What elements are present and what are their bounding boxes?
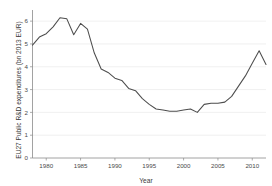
- y-tick-label: 6: [25, 17, 29, 24]
- y-tick-label: 4: [25, 63, 29, 70]
- y-tick-label: 0: [25, 154, 29, 161]
- y-tick-label: 1: [25, 131, 29, 138]
- gridlines-group: [33, 21, 267, 135]
- line-chart: 0123456 1980198519901995200020052010 Yea…: [0, 0, 272, 186]
- x-axis-title: Year: [139, 177, 153, 184]
- x-tick-label: 1990: [108, 162, 122, 169]
- y-axis-title: EU27 Public R&D expenditures (bn 2013 EU…: [15, 21, 23, 158]
- x-tick-group: 1980198519901995200020052010: [39, 158, 259, 169]
- x-tick-label: 1985: [74, 162, 88, 169]
- y-tick-group: 0123456: [25, 17, 33, 161]
- x-tick-label: 2000: [177, 162, 191, 169]
- y-tick-label: 3: [25, 86, 29, 93]
- x-tick-label: 2005: [211, 162, 225, 169]
- x-tick-label: 1980: [39, 162, 53, 169]
- chart-figure: 0123456 1980198519901995200020052010 Yea…: [0, 0, 272, 186]
- y-tick-label: 5: [25, 40, 29, 47]
- x-tick-label: 1995: [142, 162, 156, 169]
- x-tick-label: 2010: [245, 162, 259, 169]
- axes-group: [33, 10, 267, 158]
- data-series-line: [33, 18, 267, 113]
- y-tick-label: 2: [25, 109, 29, 116]
